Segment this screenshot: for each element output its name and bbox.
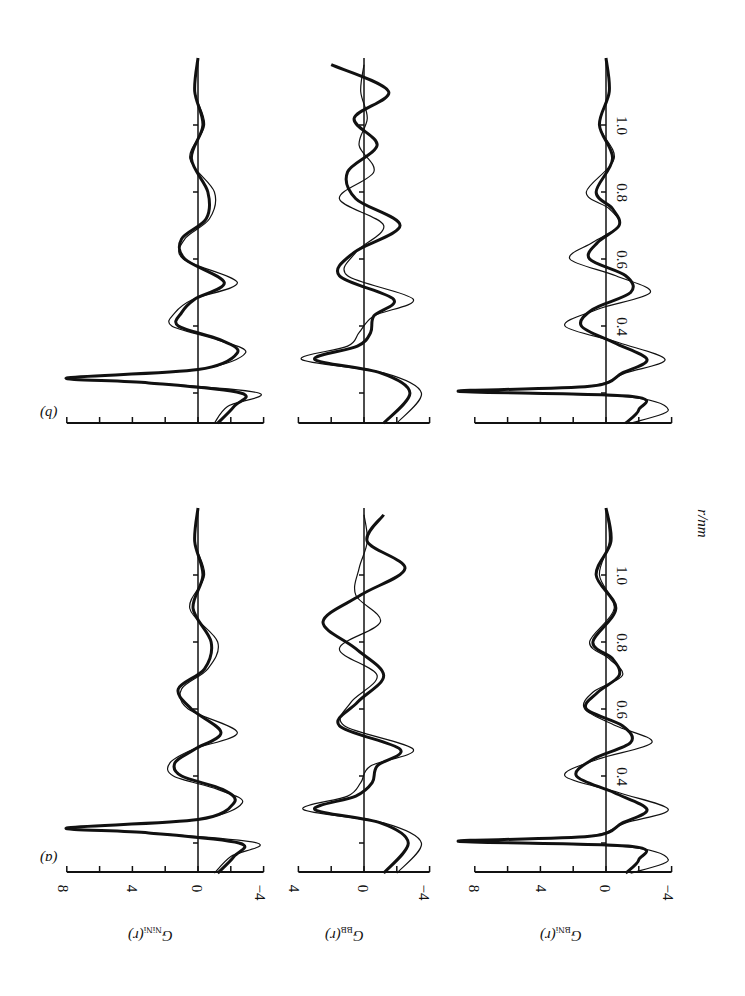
model-curve	[458, 58, 647, 423]
tick-nini-m4: −4	[251, 885, 268, 901]
rtick-b-0.8: 0.8	[613, 183, 630, 202]
rtick-b-0.6: 0.6	[613, 250, 630, 269]
tick-bb-4: 4	[285, 885, 302, 893]
rtick-a-0.4: 0.4	[613, 767, 630, 786]
figure-canvas	[0, 0, 745, 996]
panel-label-b: (b)	[40, 405, 58, 422]
experiment-curve	[69, 58, 261, 423]
rtick-b-0.4: 0.4	[613, 317, 630, 336]
experiment-curve	[69, 508, 260, 873]
tick-nini-8: 8	[54, 885, 71, 893]
panel-label-a: (a)	[40, 850, 58, 867]
tick-bni-8: 8	[465, 885, 482, 893]
ylabel-gnini: GNiNi(r)	[128, 925, 173, 944]
ylabel-gbni: GBNi(r)	[540, 925, 582, 944]
experiment-curve	[301, 65, 421, 423]
tick-bni-4: 4	[532, 885, 549, 893]
r-axis-label: r/nm	[694, 509, 711, 537]
rtick-a-1.0: 1.0	[613, 566, 630, 585]
model-curve	[66, 58, 246, 423]
tick-nini-4: 4	[123, 885, 140, 893]
tick-nini-0: 0	[188, 885, 205, 893]
tick-bb-m4: −4	[415, 885, 432, 901]
tick-bni-m4: −4	[659, 885, 676, 901]
model-curve	[458, 508, 647, 873]
rtick-b-1.0: 1.0	[613, 116, 630, 135]
model-curve	[66, 508, 245, 873]
tick-bb-0: 0	[354, 885, 371, 893]
ylabel-gbb: GBB(r)	[325, 925, 364, 944]
tick-bni-0: 0	[596, 885, 613, 893]
rtick-a-0.6: 0.6	[613, 700, 630, 719]
rtick-a-0.8: 0.8	[613, 633, 630, 652]
